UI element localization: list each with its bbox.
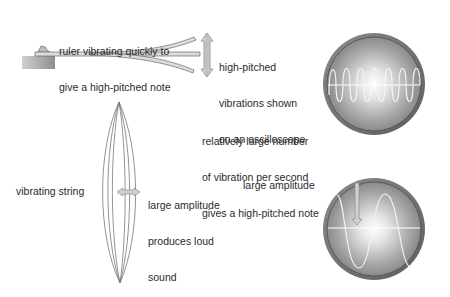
loud-sound-caption: large amplitude produces loud sound [148,175,220,295]
loud-sound-line1: large amplitude [148,199,220,211]
clamp-icon [38,46,50,52]
vibration-double-arrow-icon [201,33,213,77]
loud-sound-line2: produces loud [148,235,220,247]
ruler-caption-line1: ruler vibrating quickly to [59,45,171,57]
oscilloscope-high-frequency [323,33,425,135]
high-pitch-caption-line2: vibrations shown [219,97,305,109]
large-amplitude-label: large amplitude [243,179,315,191]
high-pitch-caption-line1: high-pitched [219,61,305,73]
table-edge-block [22,56,55,69]
amplitude-double-arrow-icon [117,188,140,196]
oscilloscope-large-amplitude [323,178,425,280]
frequency-note-line1: relatively large number [202,135,319,147]
ruler-caption-line2: give a high-pitched note [59,81,171,93]
ruler-caption: ruler vibrating quickly to give a high-p… [59,21,171,105]
loud-sound-line3: sound [148,271,220,283]
vibrating-string-label: vibrating string [16,185,84,197]
